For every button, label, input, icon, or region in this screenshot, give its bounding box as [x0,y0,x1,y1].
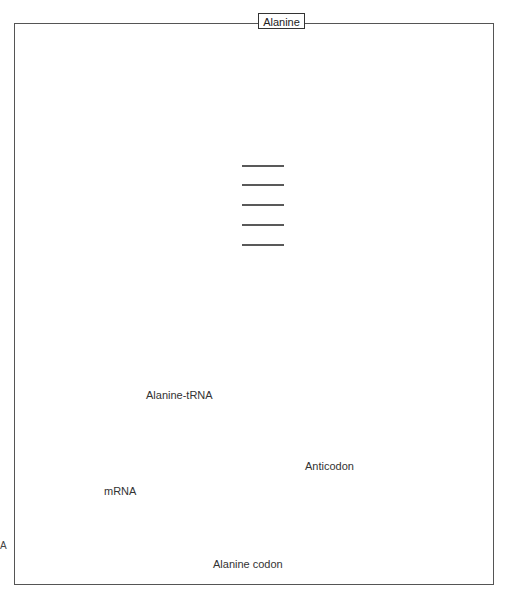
mrna-label: mRNA [104,485,136,497]
codon-label: Alanine codon [213,558,283,570]
trna-diagram: A Alanine Alanine-tRNA mRNA Anticodon Al… [0,0,514,606]
trna-structure-svg [0,0,514,606]
amino-acid-label-box: Alanine [258,13,305,29]
trna-label: Alanine-tRNA [146,389,213,401]
base-pair-bonds [242,166,284,245]
anticodon-label: Anticodon [305,460,354,472]
